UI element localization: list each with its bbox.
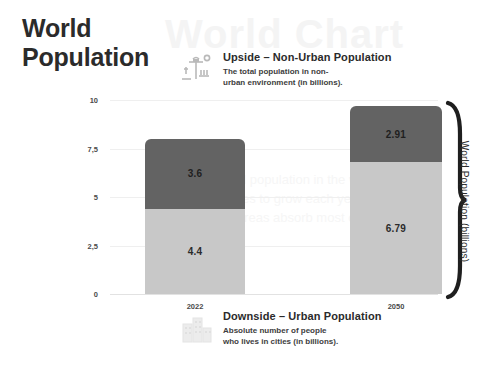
legend-urban-subtitle: Absolute number of people who lives in c… (223, 326, 373, 347)
legend-urban-heading: Downside – Urban Population (223, 310, 382, 323)
y-axis-tick-2-5: 2,5 (58, 242, 98, 251)
bar-2050-label-urban: 6.79 (386, 223, 406, 234)
bar-2022-label-urban: 4.4 (188, 246, 203, 257)
bar-2050-segment-non-urban[interactable]: 2.91 (350, 106, 442, 163)
legend-urban: Downside – Urban Population Absolute num… (180, 309, 382, 347)
page-title: World Population (22, 14, 149, 72)
legend-non-urban-subtitle-line-2: urban environment (in billions). (223, 78, 373, 89)
bar-2022-segment-non-urban[interactable]: 3.6 (145, 139, 245, 209)
legend-non-urban-heading: Upside – Non-Urban Population (223, 51, 392, 64)
y-axis-label-right-text: World Population (billions) (460, 140, 471, 261)
bar-2022[interactable]: 3.6 4.4 (145, 139, 245, 294)
legend-non-urban: Upside – Non-Urban Population The total … (180, 50, 392, 88)
bar-2022-label-non-urban: 3.6 (188, 168, 203, 179)
legend-urban-text: Downside – Urban Population Absolute num… (223, 309, 382, 347)
legend-urban-subtitle-line-2: who lives in cities (in billions). (223, 337, 373, 348)
legend-non-urban-text: Upside – Non-Urban Population The total … (223, 50, 392, 88)
page-title-line-2: Population (22, 43, 149, 72)
bar-2050[interactable]: 2.91 6.79 (350, 106, 442, 294)
chart-plot-area: 10 7,5 5 2,5 0 3.6 4.4 2022 2.9 (110, 100, 438, 294)
y-axis-tick-10: 10 (58, 96, 98, 105)
legend-non-urban-subtitle-line-1: The total population in non- (223, 67, 373, 78)
bar-2050-segment-urban[interactable]: 6.79 (350, 162, 442, 294)
bar-group-2050[interactable]: 2.91 6.79 2050 (350, 100, 442, 294)
bar-2022-segment-urban[interactable]: 4.4 (145, 209, 245, 294)
page-title-line-1: World (22, 14, 149, 43)
y-axis-tick-0: 0 (58, 290, 98, 299)
city-buildings-icon (180, 310, 214, 344)
legend-non-urban-subtitle: The total population in non- urban envir… (223, 67, 373, 88)
rural-person-icon (180, 51, 214, 85)
bar-2050-label-non-urban: 2.91 (386, 129, 406, 140)
legend-urban-subtitle-line-1: Absolute number of people (223, 326, 373, 337)
stacked-bar-chart: 10 7,5 5 2,5 0 3.6 4.4 2022 2.9 (78, 94, 438, 299)
y-axis-label-right: World Population (billions) (458, 108, 472, 294)
gridline-0 (110, 294, 438, 295)
y-axis-tick-7-5: 7,5 (58, 145, 98, 154)
bar-group-2022[interactable]: 3.6 4.4 2022 (145, 100, 245, 294)
y-axis-tick-5: 5 (58, 193, 98, 202)
